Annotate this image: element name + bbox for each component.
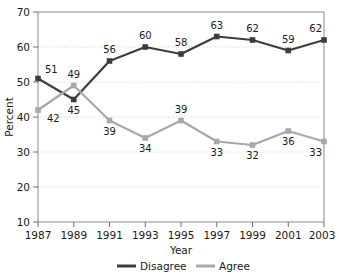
data-label-agree-1995: 39 bbox=[175, 104, 188, 115]
data-label-disagree-2003: 62 bbox=[309, 23, 322, 34]
data-label-agree-1991: 39 bbox=[103, 126, 116, 137]
data-point-agree-1991[interactable] bbox=[107, 118, 113, 124]
data-point-agree-2001[interactable] bbox=[285, 128, 291, 134]
x-label-1995: 1995 bbox=[168, 229, 195, 241]
x-label-1997: 1997 bbox=[203, 229, 230, 241]
data-point-agree-1997[interactable] bbox=[214, 139, 220, 145]
y-label-50: 50 bbox=[17, 76, 30, 88]
line-chart: 70 60 50 40 30 20 10 1987 1989 1991 1993… bbox=[0, 0, 339, 277]
x-label-2003: 2003 bbox=[309, 229, 336, 241]
y-label-30: 30 bbox=[17, 146, 30, 158]
data-point-disagree-2001[interactable] bbox=[285, 48, 291, 54]
x-tick-labels: 1987 1989 1991 1993 1995 1997 1999 2001 … bbox=[25, 229, 336, 241]
series-layer bbox=[35, 34, 327, 148]
data-point-disagree-1989[interactable] bbox=[71, 97, 77, 103]
data-point-disagree-1991[interactable] bbox=[107, 58, 113, 64]
legend-label-disagree: Disagree bbox=[140, 260, 187, 272]
y-label-40: 40 bbox=[17, 111, 30, 123]
data-point-disagree-1993[interactable] bbox=[142, 44, 148, 50]
data-point-agree-2003[interactable] bbox=[321, 139, 327, 145]
x-label-1993: 1993 bbox=[132, 229, 159, 241]
y-label-20: 20 bbox=[17, 181, 30, 193]
data-point-agree-1987[interactable] bbox=[35, 107, 41, 113]
data-label-disagree-1997: 63 bbox=[210, 20, 223, 31]
chart-svg: 70 60 50 40 30 20 10 1987 1989 1991 1993… bbox=[0, 0, 339, 277]
data-label-agree-1989: 49 bbox=[67, 69, 80, 80]
data-label-disagree-1991: 56 bbox=[103, 44, 116, 55]
data-point-agree-1989[interactable] bbox=[71, 83, 77, 89]
chart-legend: Disagree Agree bbox=[117, 260, 250, 272]
x-axis-title: Year bbox=[169, 244, 193, 256]
y-label-60: 60 bbox=[17, 41, 30, 53]
data-label-agree-1997: 33 bbox=[210, 147, 223, 158]
x-label-1989: 1989 bbox=[60, 229, 87, 241]
data-label-disagree-1989: 45 bbox=[67, 105, 80, 116]
y-axis-title: Percent bbox=[3, 97, 15, 137]
data-point-agree-1999[interactable] bbox=[250, 142, 256, 148]
data-point-disagree-1987[interactable] bbox=[35, 76, 41, 82]
data-label-layer: 514556605863625962424939343933323633 bbox=[45, 20, 322, 162]
data-label-disagree-1993: 60 bbox=[139, 30, 152, 41]
data-label-disagree-1987: 51 bbox=[45, 64, 58, 75]
data-label-agree-1987: 42 bbox=[47, 113, 60, 124]
data-point-disagree-1995[interactable] bbox=[178, 51, 184, 57]
data-label-disagree-1999: 62 bbox=[246, 23, 259, 34]
x-label-1987: 1987 bbox=[25, 229, 52, 241]
x-tick-marks bbox=[38, 222, 324, 227]
data-point-agree-1995[interactable] bbox=[178, 118, 184, 124]
y-label-10: 10 bbox=[17, 216, 30, 228]
gridlines bbox=[38, 47, 324, 187]
data-label-disagree-1995: 58 bbox=[175, 37, 188, 48]
y-tick-marks bbox=[33, 12, 38, 222]
y-label-70: 70 bbox=[17, 6, 30, 18]
data-label-agree-2003: 33 bbox=[309, 147, 322, 158]
data-point-disagree-1997[interactable] bbox=[214, 34, 220, 40]
data-label-agree-1993: 34 bbox=[139, 143, 152, 154]
legend-label-agree: Agree bbox=[219, 260, 250, 272]
data-point-agree-1993[interactable] bbox=[142, 135, 148, 141]
data-point-disagree-2003[interactable] bbox=[321, 37, 327, 43]
data-label-disagree-2001: 59 bbox=[282, 34, 295, 45]
y-tick-labels: 70 60 50 40 30 20 10 bbox=[17, 6, 30, 228]
x-label-1999: 1999 bbox=[239, 229, 266, 241]
data-label-agree-2001: 36 bbox=[282, 136, 295, 147]
data-point-disagree-1999[interactable] bbox=[250, 37, 256, 43]
x-label-2001: 2001 bbox=[275, 229, 302, 241]
x-label-1991: 1991 bbox=[96, 229, 123, 241]
data-label-agree-1999: 32 bbox=[246, 150, 259, 161]
